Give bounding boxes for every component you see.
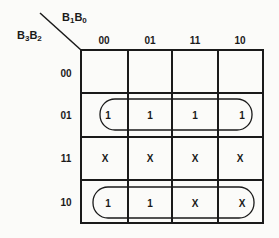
row-header: 00: [56, 68, 76, 79]
row-header: 11: [56, 153, 76, 164]
kmap-cell: X: [232, 198, 252, 209]
kmap-cell: 1: [140, 110, 160, 121]
column-variables-label: B1B0: [62, 11, 87, 25]
kmap-cell: 1: [185, 110, 205, 121]
kmap-cell: 1: [98, 198, 118, 209]
kmap-cell: X: [230, 153, 250, 164]
group-loop-row-01: [100, 99, 252, 130]
kmap-cell: 1: [232, 110, 252, 121]
column-header: 10: [230, 35, 250, 46]
kmap-cell: X: [185, 153, 205, 164]
column-header: 11: [185, 35, 205, 46]
kmap-cell: X: [140, 153, 160, 164]
column-header: 00: [94, 35, 114, 46]
row-header: 01: [56, 110, 76, 121]
column-header: 01: [140, 35, 160, 46]
kmap-cell: 1: [98, 110, 118, 121]
kmap-cell: X: [95, 153, 115, 164]
row-variables-label: B3B2: [17, 29, 42, 43]
kmap-cell: 1: [140, 198, 160, 209]
row-header: 10: [56, 197, 76, 208]
kmap-cell: X: [185, 198, 205, 209]
